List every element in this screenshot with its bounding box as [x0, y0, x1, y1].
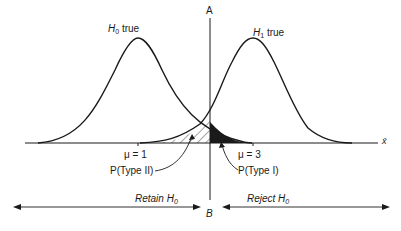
- mu1-label: μ = 1: [124, 150, 147, 160]
- reject-label: Reject H0: [247, 194, 289, 205]
- h1-true-label: H1 true: [253, 28, 284, 39]
- type1-pointer: [222, 145, 238, 170]
- retain-label: Retain H0: [135, 194, 178, 205]
- x-axis-label: x̄: [382, 137, 387, 146]
- line-bottom-label: B: [206, 209, 213, 219]
- reject-arrowhead-right: [382, 204, 390, 210]
- line-top-label: A: [206, 6, 213, 16]
- reject-arrowhead-left: [222, 204, 230, 210]
- h0-true-label: H0 true: [108, 24, 139, 35]
- type1-label: P(Type I): [238, 166, 279, 176]
- type2-label: P(Type II): [110, 166, 153, 176]
- retain-arrowhead-right: [193, 204, 201, 210]
- mu3-label: μ = 3: [238, 150, 261, 160]
- h1-curve: [140, 38, 352, 143]
- retain-arrowhead-left: [13, 204, 21, 210]
- type2-area: [150, 118, 210, 143]
- hypothesis-test-diagram: [0, 0, 401, 231]
